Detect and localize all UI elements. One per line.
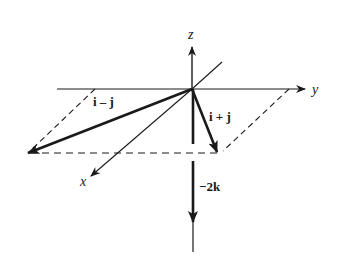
x-axis-label: x	[79, 174, 87, 189]
dashed-guide-left	[29, 89, 95, 152]
label-i-plus-j: i + j	[209, 109, 231, 124]
label-minus-2k: −2k	[199, 179, 221, 194]
dashed-guide-right	[223, 89, 289, 151]
x-axis-back	[192, 62, 222, 89]
y-axis-label: y	[310, 82, 319, 97]
label-i-minus-j: i – j	[93, 94, 114, 109]
z-axis-label: z	[187, 27, 194, 42]
vector-diagram: z y x i – j i + j −2k	[0, 0, 337, 265]
diagram-canvas: z y x i – j i + j −2k	[0, 0, 337, 265]
